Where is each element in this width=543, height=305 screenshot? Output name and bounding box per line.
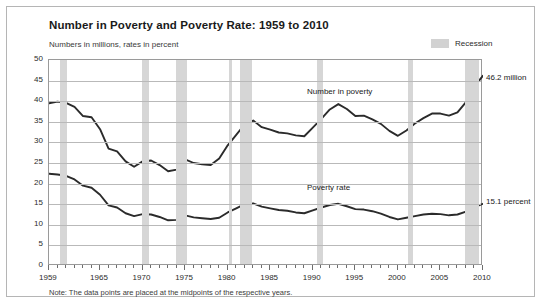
- x-tick-mark: [193, 265, 194, 268]
- x-tick-mark: [210, 265, 211, 268]
- series-label-number-in-poverty: Number in poverty: [307, 87, 372, 96]
- series-line-number-in-poverty: [49, 76, 483, 172]
- y-tick-label: 35: [17, 116, 43, 125]
- x-tick-mark: [57, 265, 58, 268]
- gridline: [49, 204, 481, 205]
- x-tick-label: 2005: [430, 273, 448, 282]
- x-tick-mark: [159, 265, 160, 268]
- x-tick-mark: [278, 265, 279, 268]
- y-tick-label: 45: [17, 75, 43, 84]
- y-tick-label: 50: [17, 54, 43, 63]
- recession-swatch-icon: [431, 39, 449, 48]
- y-tick-label: 25: [17, 157, 43, 166]
- gridline: [49, 184, 481, 185]
- gridline: [49, 245, 481, 246]
- x-tick-label: 1990: [303, 273, 321, 282]
- gridline: [49, 101, 481, 102]
- endpoint-label-rate: 15.1 percent: [486, 197, 530, 206]
- x-tick-mark: [473, 265, 474, 268]
- x-tick-mark: [465, 265, 466, 268]
- y-tick-label: 40: [17, 95, 43, 104]
- x-tick-mark: [397, 265, 398, 270]
- legend-label-recession: Recession: [455, 39, 492, 48]
- x-tick-label: 1980: [218, 273, 236, 282]
- y-tick-label: 0: [17, 260, 43, 269]
- y-tick-label: 10: [17, 219, 43, 228]
- recession-band: [142, 60, 150, 264]
- x-tick-mark: [184, 265, 185, 270]
- x-tick-mark: [133, 265, 134, 268]
- x-tick-mark: [388, 265, 389, 268]
- gridline: [49, 81, 481, 82]
- y-tick-label: 20: [17, 178, 43, 187]
- chart-note: Note: The data points are placed at the …: [49, 288, 292, 297]
- gridline: [49, 225, 481, 226]
- x-tick-mark: [431, 265, 432, 268]
- x-tick-mark: [176, 265, 177, 268]
- x-tick-mark: [482, 265, 483, 270]
- x-tick-mark: [235, 265, 236, 268]
- x-tick-label: 1995: [345, 273, 363, 282]
- legend: Recession: [431, 39, 492, 48]
- x-tick-mark: [227, 265, 228, 270]
- x-tick-mark: [439, 265, 440, 270]
- x-tick-mark: [167, 265, 168, 268]
- x-tick-mark: [48, 265, 49, 270]
- page-title: Number in Poverty and Poverty Rate: 1959…: [49, 19, 329, 31]
- x-tick-label: 1959: [39, 273, 57, 282]
- endpoint-label-number: 46.2 million: [486, 73, 526, 82]
- x-tick-mark: [65, 265, 66, 268]
- x-tick-label: 1985: [260, 273, 278, 282]
- x-tick-mark: [125, 265, 126, 268]
- series-line-poverty-rate: [49, 174, 483, 221]
- x-tick-mark: [371, 265, 372, 268]
- plot-frame: [48, 59, 482, 265]
- x-tick-mark: [252, 265, 253, 268]
- x-tick-mark: [320, 265, 321, 268]
- recession-band: [176, 60, 187, 264]
- x-tick-label: 1965: [90, 273, 108, 282]
- x-tick-mark: [414, 265, 415, 268]
- x-tick-mark: [261, 265, 262, 268]
- recession-band: [229, 60, 232, 264]
- x-tick-mark: [303, 265, 304, 268]
- x-tick-mark: [244, 265, 245, 268]
- x-tick-mark: [74, 265, 75, 268]
- x-tick-label: 1970: [133, 273, 151, 282]
- x-tick-mark: [150, 265, 151, 268]
- x-tick-mark: [286, 265, 287, 268]
- recession-band: [465, 60, 479, 264]
- x-tick-mark: [91, 265, 92, 268]
- x-tick-mark: [108, 265, 109, 268]
- recession-band: [240, 60, 252, 264]
- axis-units-label: Numbers in millions, rates in percent: [49, 40, 178, 49]
- gridline: [49, 163, 481, 164]
- x-tick-label: 1975: [175, 273, 193, 282]
- x-tick-mark: [456, 265, 457, 268]
- x-tick-mark: [448, 265, 449, 268]
- gridline: [49, 142, 481, 143]
- x-tick-mark: [116, 265, 117, 268]
- recession-band: [60, 60, 67, 264]
- x-tick-label: 2000: [388, 273, 406, 282]
- series-label-poverty-rate: Poverty rate: [307, 183, 350, 192]
- recession-band: [408, 60, 413, 264]
- x-tick-mark: [99, 265, 100, 270]
- x-tick-mark: [363, 265, 364, 268]
- x-tick-mark: [329, 265, 330, 268]
- x-tick-mark: [142, 265, 143, 270]
- x-tick-mark: [201, 265, 202, 268]
- x-tick-mark: [218, 265, 219, 268]
- x-tick-mark: [312, 265, 313, 270]
- x-tick-mark: [295, 265, 296, 268]
- gridline: [49, 122, 481, 123]
- y-tick-label: 5: [17, 239, 43, 248]
- x-tick-mark: [422, 265, 423, 268]
- chart-card: Number in Poverty and Poverty Rate: 1959…: [6, 6, 535, 297]
- y-tick-label: 15: [17, 198, 43, 207]
- x-tick-mark: [82, 265, 83, 268]
- x-tick-mark: [337, 265, 338, 268]
- x-tick-label: 2010: [473, 273, 491, 282]
- x-tick-mark: [405, 265, 406, 268]
- chart-page: Number in Poverty and Poverty Rate: 1959…: [0, 0, 543, 305]
